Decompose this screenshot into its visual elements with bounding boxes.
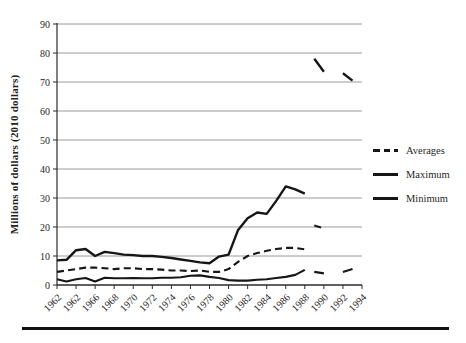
legend-item-maximum: Maximum <box>373 169 450 180</box>
x-tick-label: 1982 <box>232 292 254 314</box>
minimum-post-gap-segment <box>343 269 353 272</box>
legend-label-maximum: Maximum <box>406 169 450 180</box>
chart-figure: Millions of dollars (2010 dollars) 01020… <box>0 0 466 343</box>
y-tick-label: 60 <box>40 106 50 117</box>
x-tick-label: 1988 <box>289 292 311 314</box>
x-tick-label: 1972 <box>137 292 159 314</box>
maximum-post-gap-segment <box>343 73 353 80</box>
minimum-solid-line-swatch <box>373 197 398 199</box>
x-tick-label: 1984 <box>251 292 273 314</box>
legend-label-averages: Averages <box>406 145 445 156</box>
series-averages-line <box>57 226 324 272</box>
y-tick-label: 50 <box>40 135 50 146</box>
x-tick-label: 1966 <box>80 292 102 314</box>
chart-legend: Averages Maximum Minimum <box>373 145 450 204</box>
maximum-post-gap-segment <box>314 59 324 72</box>
averages-dashed-line-swatch <box>373 149 398 151</box>
x-tick-label: 1978 <box>194 292 216 314</box>
legend-item-averages: Averages <box>373 145 450 156</box>
x-tick-label: 1986 <box>270 292 292 314</box>
x-tick-label: 1974 <box>156 292 178 314</box>
x-tick-label: 1976 <box>175 292 197 314</box>
maximum-solid-line-swatch <box>373 173 398 175</box>
series-maximum-line <box>57 59 353 263</box>
y-tick-label: 0 <box>45 280 50 291</box>
y-tick-label: 90 <box>40 19 50 30</box>
y-tick-label: 80 <box>40 48 50 59</box>
x-tick-label: 1970 <box>118 292 140 314</box>
x-tick-label: 1968 <box>99 292 121 314</box>
x-tick-label: 1962 <box>61 292 83 314</box>
minimum-post-gap-segment <box>314 272 324 274</box>
y-tick-labels: 0102030405060708090 <box>40 19 57 291</box>
x-tick-labels: 1962196219661968197019721974197619781980… <box>41 285 368 314</box>
x-tick-label: 1962 <box>41 292 63 314</box>
y-tick-label: 40 <box>40 164 50 175</box>
x-tick-label: 1990 <box>308 292 330 314</box>
legend-label-minimum: Minimum <box>406 193 448 204</box>
bottom-rule-divider <box>22 327 449 330</box>
y-tick-label: 70 <box>40 77 50 88</box>
minimum-line <box>57 270 305 282</box>
x-tick-label: 1994 <box>346 292 368 314</box>
gridlines <box>57 24 362 256</box>
y-tick-label: 30 <box>40 193 50 204</box>
y-tick-label: 20 <box>40 222 50 233</box>
legend-item-minimum: Minimum <box>373 193 450 204</box>
x-tick-label: 1980 <box>213 292 235 314</box>
x-tick-label: 1992 <box>327 292 349 314</box>
y-tick-label: 10 <box>40 251 50 262</box>
